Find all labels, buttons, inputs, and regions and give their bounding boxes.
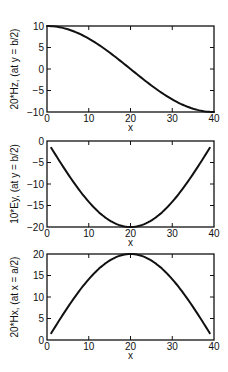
x-tick-label: 40 [208,341,220,352]
y-axis-label: 20*Hz, (at y = b/2) [9,29,20,110]
x-axis-label: x [128,237,133,248]
chart-panel-1: 010203040−10−50510x20*Hz, (at y = b/2) [9,21,220,134]
x-tick-label: 30 [167,113,179,124]
y-axis-label: 10*Ey, (at y = b/2) [9,144,20,224]
x-tick-label: 40 [208,228,220,239]
x-tick-label: 30 [167,341,179,352]
y-tick-label: 5 [38,313,44,324]
y-tick-label: 10 [33,292,45,303]
x-tick-label: 10 [83,228,95,239]
x-tick-label: 40 [208,113,220,124]
y-tick-label: 10 [33,21,45,32]
x-tick-label: 0 [44,341,50,352]
y-tick-label: 20 [33,249,45,260]
data-line-10-ey [51,148,210,227]
y-tick-label: −15 [27,200,44,211]
x-tick-label: 10 [83,341,95,352]
x-tick-label: 0 [44,113,50,124]
data-line-20-hz [47,26,214,112]
data-line-20-hx [51,254,210,333]
chart-panel-2: 010203040−20−15−10−50x10*Ey, (at y = b/2… [9,136,220,249]
x-tick-label: 30 [167,228,179,239]
axes-frame [47,254,214,340]
chart-panel-3: 01020304005101520x20*Hx, (at x = a/2) [9,249,220,362]
y-tick-label: 0 [38,64,44,75]
y-tick-label: 5 [38,42,44,53]
y-tick-label: −10 [27,107,44,118]
y-tick-label: 0 [38,335,44,346]
y-tick-label: 0 [38,136,44,147]
y-tick-label: −5 [33,85,45,96]
axes-frame [47,141,214,227]
x-axis-label: x [128,350,133,361]
y-tick-label: −20 [27,222,44,233]
x-tick-label: 0 [44,228,50,239]
y-tick-label: −10 [27,179,44,190]
figure: 010203040−10−50510x20*Hz, (at y = b/2)01… [0,0,228,372]
x-axis-label: x [128,122,133,133]
y-tick-label: 15 [33,270,45,281]
x-tick-label: 10 [83,113,95,124]
y-axis-label: 20*Hx, (at x = a/2) [9,257,20,338]
y-tick-label: −5 [33,157,45,168]
